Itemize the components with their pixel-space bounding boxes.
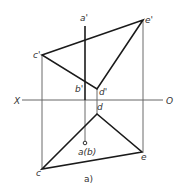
triangle-top-view: [42, 114, 142, 169]
label-axis-o: O: [166, 96, 173, 106]
label-axis-x: X: [13, 96, 21, 106]
point-ab-top: [83, 141, 87, 145]
label-e-prime: e': [145, 15, 153, 25]
label-b-prime: b': [75, 84, 83, 94]
label-a-prime: a': [80, 13, 88, 23]
label-c-prime: c': [33, 50, 40, 60]
triangle-front-view: [42, 20, 143, 89]
label-d-prime: d': [99, 87, 107, 97]
figure-caption: a): [84, 174, 93, 184]
label-e: e: [141, 152, 147, 162]
label-ab: a(b): [78, 147, 96, 157]
label-c: c: [36, 168, 41, 178]
orthographic-projection-diagram: a' e' c' b' d' X O d a(b) e c a): [0, 0, 182, 194]
label-d: d: [97, 102, 103, 112]
